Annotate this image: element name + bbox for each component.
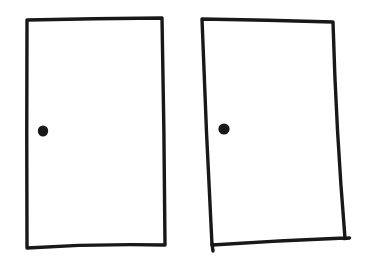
right-dot xyxy=(218,123,229,134)
left-dot xyxy=(38,125,48,136)
right-rectangle-overshoot-bottom-left xyxy=(212,244,213,251)
sketch-canvas xyxy=(0,0,366,264)
right-rectangle-overshoot-bottom-right xyxy=(344,238,350,239)
sketch-page xyxy=(0,0,366,264)
